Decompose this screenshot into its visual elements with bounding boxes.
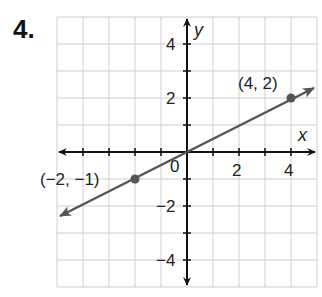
y-tick-label-2: 2 [166,89,175,108]
y-axis-label: y [192,20,204,40]
point-4-2 [287,94,296,103]
y-tick-label-neg2: −2 [156,197,175,216]
point-label-4-2: (4, 2) [238,74,278,93]
x-tick-label-2: 2 [232,161,241,180]
x-tick-label-4: 4 [284,161,293,180]
coordinate-plane: y x 0 2 4 4 2 −2 −4 (−2, −1) (4, 2) [0,0,322,297]
origin-label: 0 [170,157,179,176]
point-neg2-neg1 [131,175,140,184]
y-tick-label-neg4: −4 [156,251,175,270]
y-tick-label-4: 4 [166,35,175,54]
point-label-neg2-neg1: (−2, −1) [40,170,100,189]
x-axis-label: x [297,125,308,145]
